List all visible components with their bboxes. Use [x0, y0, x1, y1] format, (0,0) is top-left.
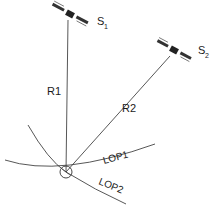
- satellite-s1-label: S 1: [97, 15, 108, 30]
- range-label-r2: R2: [122, 102, 136, 114]
- range-label-r1: R1: [47, 85, 61, 97]
- range-line-r1: [66, 20, 68, 172]
- satellite-icon: [156, 38, 193, 62]
- satellite-ranging-diagram: S 1 S 2 R1 R2 LOP1 LOP2: [0, 0, 213, 211]
- satellite-icon: [51, 1, 90, 26]
- satellite-s2-label: S 2: [198, 44, 209, 59]
- lop1-label: LOP1: [102, 149, 130, 166]
- svg-text:2: 2: [205, 52, 209, 59]
- lop1-arc: [5, 144, 155, 166]
- svg-text:1: 1: [104, 23, 108, 30]
